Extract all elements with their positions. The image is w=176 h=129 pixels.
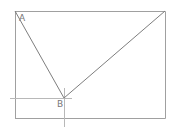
segment-b-c [64,11,165,98]
triangle-segments [15,11,165,98]
geometry-diagram: A B [0,0,176,129]
frame-rectangle [15,12,166,119]
point-label-a: A [19,13,26,23]
point-label-b: B [57,99,63,109]
segment-a-b [15,11,64,98]
